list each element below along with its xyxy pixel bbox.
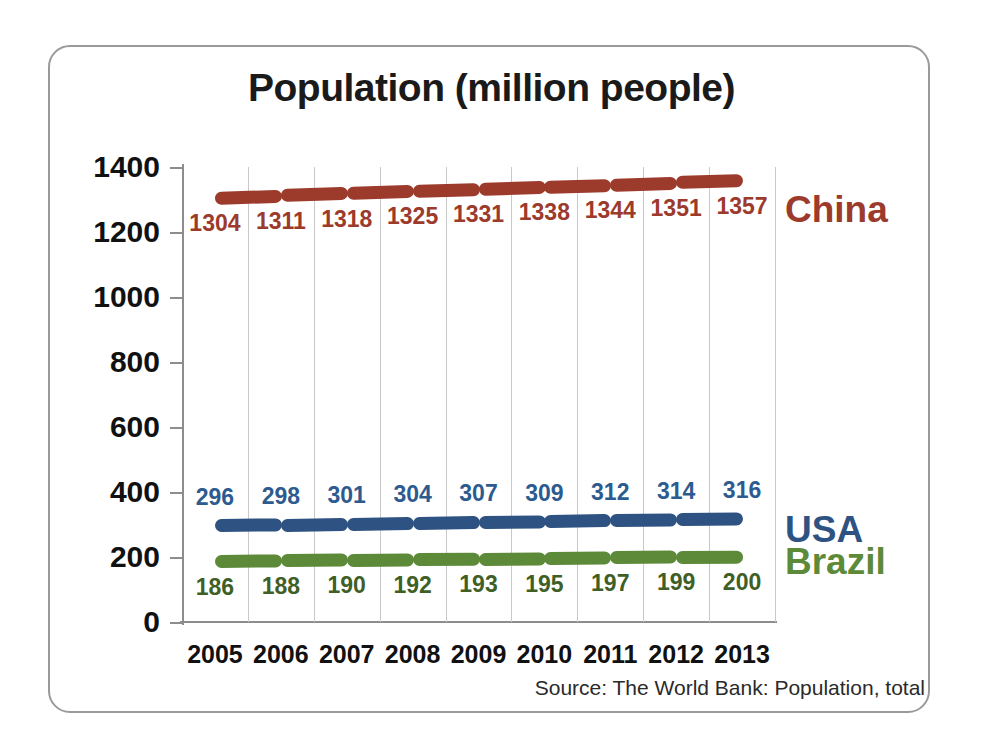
data-label: 199 bbox=[641, 569, 711, 596]
series-line-segment bbox=[544, 179, 611, 194]
data-label: 1304 bbox=[180, 210, 250, 237]
series-line-segment bbox=[281, 554, 348, 568]
y-axis-tick bbox=[170, 167, 182, 169]
data-label: 1311 bbox=[246, 208, 316, 235]
series-line-segment bbox=[281, 518, 348, 532]
y-axis-tick bbox=[170, 427, 182, 429]
series-line-segment bbox=[478, 515, 545, 529]
data-label: 1344 bbox=[575, 197, 645, 224]
data-label: 192 bbox=[378, 572, 448, 599]
data-label: 314 bbox=[641, 478, 711, 505]
y-axis-tick bbox=[170, 622, 182, 624]
series-line-segment bbox=[610, 551, 677, 565]
series-name-brazil: Brazil bbox=[785, 541, 886, 583]
y-axis-tick-label: 1200 bbox=[40, 215, 160, 249]
series-name-china: China bbox=[785, 189, 888, 231]
data-label: 309 bbox=[509, 480, 579, 507]
series-line-segment bbox=[610, 176, 677, 191]
data-label: 1325 bbox=[378, 203, 448, 230]
series-line-segment bbox=[412, 183, 479, 198]
series-line-segment bbox=[544, 551, 611, 565]
data-label: 195 bbox=[509, 571, 579, 598]
data-label: 1338 bbox=[509, 199, 579, 226]
data-label: 298 bbox=[246, 483, 316, 510]
series-line-segment bbox=[676, 174, 743, 189]
series-line-segment bbox=[215, 519, 282, 533]
data-label: 1331 bbox=[444, 201, 514, 228]
data-label: 197 bbox=[575, 570, 645, 597]
y-axis-tick-label: 1000 bbox=[40, 280, 160, 314]
y-axis-tick-label: 400 bbox=[40, 475, 160, 509]
series-line-segment bbox=[347, 517, 414, 531]
series-line-segment bbox=[347, 553, 414, 567]
data-label: 1318 bbox=[312, 206, 382, 233]
data-label: 301 bbox=[312, 482, 382, 509]
data-label: 312 bbox=[575, 479, 645, 506]
data-label: 307 bbox=[444, 480, 514, 507]
data-label: 296 bbox=[180, 484, 250, 511]
series-line-segment bbox=[478, 552, 545, 566]
gridline-vertical bbox=[775, 167, 776, 622]
series-line-segment bbox=[610, 513, 677, 527]
y-axis-tick-label: 200 bbox=[40, 540, 160, 574]
y-axis-tick bbox=[170, 297, 182, 299]
y-axis-tick bbox=[170, 362, 182, 364]
series-line-segment bbox=[215, 189, 282, 204]
data-label: 188 bbox=[246, 573, 316, 600]
series-line-segment bbox=[413, 553, 480, 566]
data-label: 1357 bbox=[707, 193, 777, 220]
y-axis-tick bbox=[170, 557, 182, 559]
x-axis-line bbox=[180, 621, 777, 623]
series-line-segment bbox=[215, 554, 282, 568]
data-label: 190 bbox=[312, 572, 382, 599]
data-label: 316 bbox=[707, 477, 777, 504]
y-axis-tick-labels: 0200400600800100012001400 bbox=[30, 0, 160, 754]
data-label: 1351 bbox=[641, 195, 711, 222]
series-line-segment bbox=[676, 513, 743, 527]
data-label: 304 bbox=[378, 481, 448, 508]
source-note: Source: The World Bank: Population, tota… bbox=[535, 676, 925, 700]
y-axis-tick-label: 600 bbox=[40, 410, 160, 444]
series-line-segment bbox=[413, 516, 480, 530]
data-label: 186 bbox=[180, 574, 250, 601]
chart-card-frame bbox=[48, 45, 930, 713]
x-axis-tick-label: 2013 bbox=[697, 640, 787, 669]
y-axis-tick-label: 1400 bbox=[40, 150, 160, 184]
series-line-segment bbox=[346, 185, 413, 200]
series-line-segment bbox=[544, 514, 611, 528]
data-label: 200 bbox=[707, 569, 777, 596]
series-line-segment bbox=[478, 181, 545, 196]
y-axis-tick-label: 0 bbox=[40, 605, 160, 639]
data-label: 193 bbox=[444, 571, 514, 598]
y-axis-tick-label: 800 bbox=[40, 345, 160, 379]
series-line-segment bbox=[676, 550, 743, 563]
